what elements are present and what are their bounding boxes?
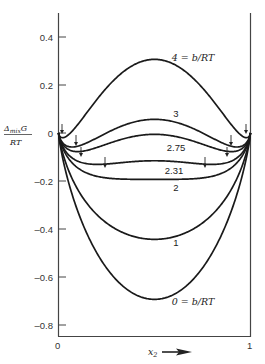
curve-b-2 [59, 133, 251, 179]
curve-b-0 [59, 133, 251, 299]
curve-label: 4 = b/RT [171, 52, 215, 63]
curve-b-2_31 [59, 133, 251, 164]
y-tick-label: 0.4 [40, 32, 53, 43]
down-arrow-icon [103, 164, 107, 168]
svg-text:ΔmixG: ΔmixG [3, 124, 28, 134]
y-axis-label: ΔmixG RT [3, 124, 32, 147]
down-arrow-icon [74, 142, 78, 146]
y-tick-label: –0.2 [35, 176, 54, 187]
curve-label: 1 [173, 237, 178, 248]
curve-label: 2.31 [165, 165, 184, 176]
curve-label: 3 [173, 108, 178, 119]
curve-label: 0 = b/RT [172, 296, 215, 307]
down-arrow-icon [225, 153, 229, 157]
x-tick-0: 0 [55, 340, 60, 351]
curves [59, 59, 251, 299]
y-ticks: 0.40.20–0.2–0.4–0.6–0.8 [35, 32, 67, 331]
y-label-mix: mix [10, 127, 22, 134]
y-tick-label: –0.4 [35, 224, 54, 235]
free-energy-of-mixing-chart: 0.40.20–0.2–0.4–0.6–0.8 4 = b/RT32.752.3… [0, 0, 265, 364]
down-arrow-icon [79, 153, 83, 157]
svg-text:x2: x2 [148, 346, 158, 359]
y-tick-label: 0.2 [40, 80, 53, 91]
y-tick-label: 0 [48, 128, 53, 139]
x-axis-label: x2 [148, 346, 192, 359]
down-arrow-icon [244, 130, 248, 134]
curve-b-3 [59, 119, 251, 147]
y-label-delta: Δ [3, 124, 10, 133]
y-label-g: G [21, 124, 28, 133]
curve-b-4 [59, 59, 251, 137]
curve-b-1 [59, 133, 251, 239]
curve-label: 2.75 [167, 142, 186, 153]
curve-label: 2 [173, 182, 178, 193]
x-label-sub: 2 [152, 351, 157, 359]
down-arrow-icon [203, 164, 207, 168]
y-tick-label: –0.8 [35, 320, 54, 331]
x-tick-1: 1 [247, 340, 252, 351]
y-label-rt: RT [9, 138, 22, 147]
y-tick-label: –0.6 [35, 272, 54, 283]
